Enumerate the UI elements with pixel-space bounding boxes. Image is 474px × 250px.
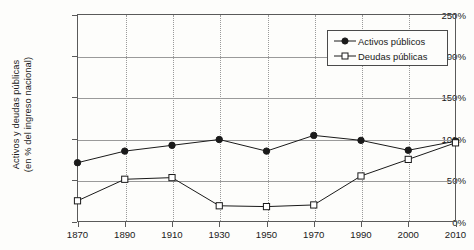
x-tick-label: 2000: [383, 229, 433, 240]
gridline-vertical: [268, 15, 269, 221]
x-tick-label: 1970: [289, 229, 339, 240]
chart-legend: Activos públicos Deudas públicas: [327, 30, 448, 66]
x-tick-mark: [267, 222, 268, 227]
legend-label-deudas-publicas: Deudas públicas: [358, 51, 427, 62]
x-tick-mark: [125, 222, 126, 227]
filled-circle-marker-icon: [332, 35, 358, 47]
open-square-marker-icon: [332, 50, 358, 62]
x-tick-label: 1990: [336, 229, 386, 240]
gridline-horizontal: [78, 98, 455, 99]
x-tick-mark: [314, 222, 315, 227]
gridline-vertical: [315, 15, 316, 221]
gridline-vertical: [220, 15, 221, 221]
chart-figure: Activos y deudas públicas (en % del ingr…: [0, 0, 474, 250]
gridline-vertical: [173, 15, 174, 221]
legend-label-activos-publicos: Activos públicos: [358, 36, 425, 47]
y-axis-title-line1: Activos y deudas públicas: [12, 59, 22, 168]
x-tick-mark: [172, 222, 173, 227]
x-tick-mark: [408, 222, 409, 227]
y-axis-title: Activos y deudas públicas (en % del ingr…: [0, 0, 46, 228]
gridline-horizontal: [78, 181, 455, 182]
x-tick-label: 1870: [53, 229, 103, 240]
x-tick-label: 1930: [194, 229, 244, 240]
legend-item-deudas-publicas[interactable]: Deudas públicas: [332, 49, 447, 63]
x-tick-label: 1950: [242, 229, 292, 240]
x-tick-mark: [361, 222, 362, 227]
gridline-horizontal: [78, 140, 455, 141]
gridline-vertical: [126, 15, 127, 221]
x-tick-mark: [456, 222, 457, 227]
x-tick-label: 1890: [100, 229, 150, 240]
x-tick-label: 1910: [147, 229, 197, 240]
x-tick-mark: [78, 222, 79, 227]
legend-item-activos-publicos[interactable]: Activos públicos: [332, 34, 447, 48]
x-tick-mark: [219, 222, 220, 227]
y-axis-title-line2: (en % del ingreso nacional): [23, 56, 35, 171]
x-tick-label: 2010: [431, 229, 474, 240]
